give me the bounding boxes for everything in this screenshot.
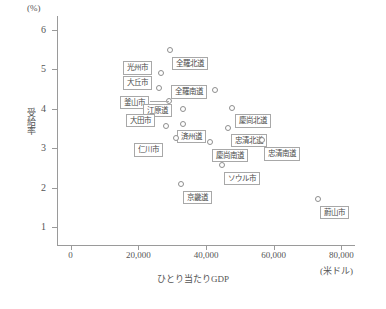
x-tick-label: 0 [41, 250, 101, 260]
data-point-marker[interactable] [219, 162, 225, 168]
data-point-marker[interactable] [158, 70, 164, 76]
y-tick-label: 5 [20, 64, 46, 74]
x-tick-label: 40,000 [176, 250, 236, 260]
data-point-marker[interactable] [207, 139, 213, 145]
data-point-label: 慶尚南道 [212, 149, 248, 163]
x-tick-label: 20,000 [108, 250, 168, 260]
data-point-label: 京畿道 [183, 191, 212, 205]
y-tick-label: 6 [20, 25, 46, 35]
data-point-label: 大田市 [126, 114, 155, 128]
y-tick-label: 2 [20, 183, 46, 193]
data-point-label: 済州道 [177, 130, 206, 144]
y-tick-label: 3 [20, 143, 46, 153]
data-point-label: 大丘市 [123, 76, 152, 90]
data-point-marker[interactable] [163, 123, 169, 129]
data-point-label: ソウル市 [224, 172, 260, 186]
y-tick-label: 1 [20, 222, 46, 232]
chart-root: (%) 受給率 123456 020,00040,00060,00080,000… [0, 0, 386, 309]
data-point-label: 慶尚北道 [235, 114, 271, 128]
label-leader-line [150, 101, 169, 102]
data-point-label: 全羅北道 [172, 57, 208, 71]
y-tick-label: 4 [20, 104, 46, 114]
data-point-label: 仁川市 [134, 143, 163, 157]
data-point-label: 光州市 [123, 61, 152, 75]
data-point-marker[interactable] [156, 85, 162, 91]
data-point-marker[interactable] [225, 125, 231, 131]
data-point-marker[interactable] [229, 105, 235, 111]
data-point-marker[interactable] [180, 121, 186, 127]
x-tick-label: 60,000 [244, 250, 304, 260]
data-point-marker[interactable] [178, 181, 184, 187]
data-point-label: 蔚山市 [320, 206, 349, 220]
data-point-label: 忠清南道 [264, 147, 300, 161]
x-tick-label: 80,000 [311, 250, 371, 260]
data-point-marker[interactable] [315, 196, 321, 202]
data-point-marker[interactable] [167, 47, 173, 53]
y-axis-unit: (%) [27, 3, 41, 13]
x-axis-unit: (米ドル) [320, 264, 353, 277]
data-point-label: 全羅南道 [171, 85, 207, 99]
data-point-marker[interactable] [212, 87, 218, 93]
data-point-marker[interactable] [180, 106, 186, 112]
scatter-points-layer: 全羅北道光州市大丘市全羅南道釜山市江原道慶尚北道大田市済州道忠清北道仁川市慶尚南… [57, 18, 355, 243]
